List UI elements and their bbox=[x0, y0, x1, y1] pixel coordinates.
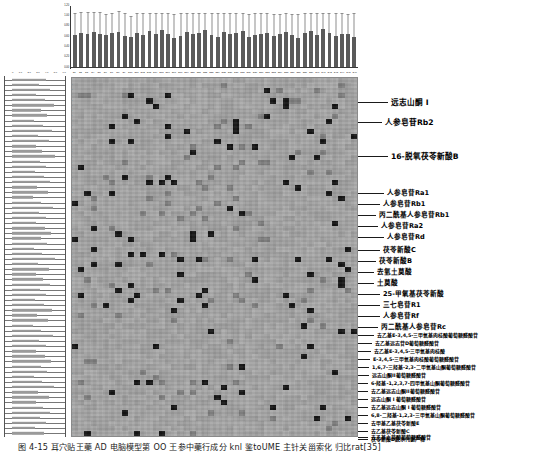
annotation-text: 茯苓新酸C bbox=[383, 247, 416, 254]
top-chart-error-bar bbox=[161, 13, 162, 31]
annotation-label: 远志山酮 I 葡萄糖醛酸苷 bbox=[358, 397, 426, 402]
top-chart-bar bbox=[234, 33, 238, 67]
annotation-leader-line bbox=[358, 335, 374, 336]
heatmap-row-tick: 15 bbox=[71, 150, 72, 152]
top-chart-y-tick: 1.00 bbox=[64, 15, 69, 18]
top-chart-bar bbox=[185, 32, 189, 67]
top-chart-bar bbox=[148, 31, 152, 67]
heatmap-row-tick: 31 bbox=[71, 233, 72, 235]
left-chart-bar bbox=[12, 196, 33, 198]
heatmap-row-tick: 4 bbox=[71, 93, 72, 95]
top-chart-bar bbox=[315, 35, 319, 67]
figure-page: 1.201.000.800.600.400.200.00 S1S2S3S4S5S… bbox=[0, 0, 559, 460]
top-chart-error-bar bbox=[341, 13, 342, 34]
left-chart-bar bbox=[12, 417, 39, 419]
top-chart-bar bbox=[247, 37, 251, 67]
top-chart-bar bbox=[179, 36, 183, 67]
annotation-text: 25-甲氧基茯苓新酸 bbox=[383, 291, 444, 298]
left-chart-bar bbox=[12, 201, 41, 203]
top-chart-y-tick: 1.20 bbox=[64, 5, 69, 8]
left-chart-bar bbox=[12, 119, 33, 121]
annotation-label: 去乙基远志山酮II葡萄糖醛酸苷 bbox=[358, 389, 440, 394]
top-chart-error-bar bbox=[261, 13, 262, 34]
left-chart-bar bbox=[12, 411, 49, 413]
left-chart-bar bbox=[12, 309, 52, 311]
left-chart-bar bbox=[12, 155, 55, 157]
left-chart-bar bbox=[12, 268, 48, 270]
top-chart-y-tick: 0.60 bbox=[64, 36, 69, 39]
top-chart-error-bar bbox=[223, 13, 224, 33]
annotation-text: 远志山酮 I 葡萄糖醛酸苷 bbox=[371, 397, 426, 402]
left-chart-bar bbox=[12, 340, 38, 342]
heatmap-row-tick: 70 bbox=[71, 434, 72, 436]
annotation-text: 去氢土莫酸 bbox=[377, 269, 412, 276]
annotation-text: 6,8-二羟基-1,2,3-三甲氧基山酮葡萄糖醛酸苷 bbox=[371, 413, 475, 418]
left-chart-bar bbox=[12, 191, 48, 193]
heatmap-row-tick: 64 bbox=[71, 403, 72, 405]
annotation-text: 土莫酸 bbox=[377, 280, 398, 287]
left-chart-bar bbox=[12, 376, 33, 378]
left-chart-bar bbox=[12, 109, 40, 111]
left-chart-bar bbox=[12, 406, 43, 408]
annotation-label: 人参皂苷Rf bbox=[358, 313, 419, 320]
annotation-leader-line bbox=[358, 215, 376, 216]
top-chart-bar bbox=[172, 38, 176, 67]
left-chart-bar bbox=[12, 350, 35, 352]
left-chart-bar bbox=[12, 94, 35, 96]
heatmap-row-tick: 49 bbox=[71, 326, 72, 328]
left-chart-bar bbox=[12, 124, 43, 126]
top-chart-bar bbox=[296, 38, 300, 67]
heatmap-row-tick: 66 bbox=[71, 413, 72, 415]
annotation-leader-line bbox=[358, 367, 369, 368]
heatmap-row-tick: 56 bbox=[71, 362, 72, 364]
top-chart-error-bar bbox=[304, 13, 305, 33]
annotation-leader-line bbox=[358, 415, 368, 416]
annotation-leader-line bbox=[358, 359, 370, 360]
heatmap-row-tick: 16 bbox=[71, 155, 72, 157]
heatmap-row-tick: 13 bbox=[71, 140, 72, 142]
left-chart-bar bbox=[12, 212, 38, 214]
left-chart-bar bbox=[12, 365, 40, 367]
heatmap-panel: 1234567891011121314151617181920212223242… bbox=[71, 77, 358, 437]
left-chart-bar bbox=[12, 165, 45, 167]
heatmap-row-tick: 5 bbox=[71, 99, 72, 101]
left-chart-bar bbox=[12, 104, 53, 106]
left-chart-bar bbox=[12, 370, 47, 372]
left-chart-bar bbox=[12, 217, 46, 219]
annotation-leader-line bbox=[358, 431, 368, 432]
annotation-leader-line bbox=[358, 423, 368, 424]
left-chart-bar bbox=[12, 324, 33, 326]
heatmap-row-tick: 34 bbox=[71, 248, 72, 250]
left-chart-bar bbox=[12, 227, 44, 229]
top-chart-error-bar bbox=[112, 13, 113, 33]
annotation-text: 远志山酮II葡萄糖醛酸苷 bbox=[372, 373, 426, 378]
annotation-leader-line bbox=[358, 375, 369, 376]
heatmap-row-tick: 28 bbox=[71, 217, 72, 219]
annotation-label: 6-羟基-1,2,3,7-四甲氧基山酮葡萄糖醛酸苷 bbox=[358, 381, 470, 386]
top-chart-bar bbox=[129, 37, 133, 67]
left-chart-bar bbox=[12, 247, 33, 249]
left-chart-bar bbox=[12, 381, 42, 383]
annotation-text: 人参皂苷Rf bbox=[383, 313, 419, 320]
annotation-text: 去甲基乙基茯苓新酸E bbox=[371, 421, 419, 426]
top-chart-error-bar bbox=[248, 14, 249, 37]
top-chart-bar bbox=[346, 34, 350, 67]
top-chart-error-bar bbox=[93, 12, 94, 32]
heatmap-row-tick: 3 bbox=[71, 88, 72, 90]
left-chart-bar bbox=[12, 432, 43, 434]
left-chart-bar bbox=[12, 278, 43, 280]
heatmap-row-tick: 69 bbox=[71, 429, 72, 431]
annotation-label: 人参皂苷Ra1 bbox=[358, 190, 429, 197]
top-chart-bar bbox=[228, 34, 232, 67]
left-chart-bar bbox=[12, 83, 38, 85]
left-chart-bar bbox=[12, 273, 36, 275]
annotation-text: 人参皂苷Ra1 bbox=[387, 190, 429, 197]
annotation-leader-line bbox=[358, 351, 371, 352]
top-chart-bar bbox=[334, 36, 338, 67]
heatmap-row-tick: 62 bbox=[71, 393, 72, 395]
heatmap-row-tick: 27 bbox=[71, 212, 72, 214]
heatmap-row-tick: 19 bbox=[71, 171, 72, 173]
annotation-text: 人参皂苷Rd bbox=[387, 234, 425, 241]
left-chart-row bbox=[5, 431, 65, 436]
top-chart-error-bar bbox=[217, 13, 218, 36]
